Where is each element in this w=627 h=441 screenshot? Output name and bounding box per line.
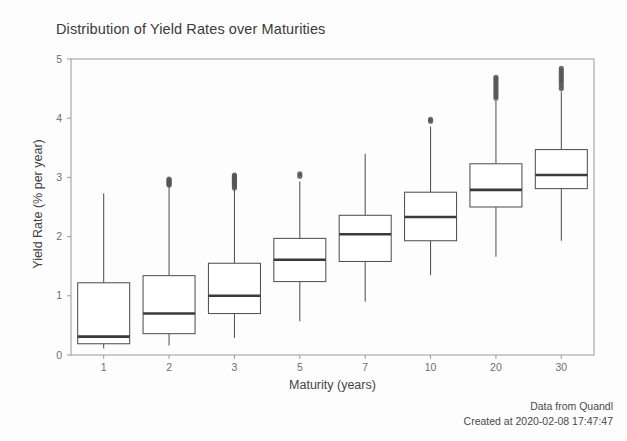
y-tick-label: 2: [56, 230, 62, 242]
x-axis-label: Maturity (years): [71, 378, 594, 392]
box-20[interactable]: [470, 75, 522, 257]
x-tick-label: 2: [166, 361, 172, 373]
y-axis-ticks: 012345: [56, 53, 71, 361]
box-7[interactable]: [339, 154, 391, 302]
y-axis-label: Yield Rate (% per year): [31, 104, 45, 304]
box-1[interactable]: [78, 193, 130, 348]
y-tick-label: 1: [56, 289, 62, 301]
boxplot-series: [78, 66, 588, 349]
x-tick-label: 5: [297, 361, 303, 373]
box-10[interactable]: [405, 117, 457, 275]
x-axis-ticks: 12357102030: [101, 355, 568, 373]
footer-annotations: Data from Quandl Created at 2020-02-08 1…: [464, 399, 613, 429]
figure-canvas: Distribution of Yield Rates over Maturit…: [0, 0, 627, 441]
box-3[interactable]: [208, 172, 260, 337]
x-tick-label: 20: [490, 361, 502, 373]
x-tick-label: 10: [425, 361, 437, 373]
footer-source: Data from Quandl: [464, 399, 613, 414]
y-tick-label: 4: [56, 112, 62, 124]
y-tick-label: 3: [56, 171, 62, 183]
boxplot-svg: 012345 12357102030: [0, 0, 627, 441]
footer-created: Created at 2020-02-08 17:47:47: [464, 414, 613, 429]
y-tick-label: 0: [56, 349, 62, 361]
box-2[interactable]: [143, 177, 195, 346]
x-tick-label: 1: [101, 361, 107, 373]
y-tick-label: 5: [56, 53, 62, 65]
x-tick-label: 7: [362, 361, 368, 373]
box-5[interactable]: [274, 171, 326, 321]
box-30[interactable]: [535, 66, 587, 241]
x-tick-label: 30: [555, 361, 567, 373]
x-tick-label: 3: [232, 361, 238, 373]
